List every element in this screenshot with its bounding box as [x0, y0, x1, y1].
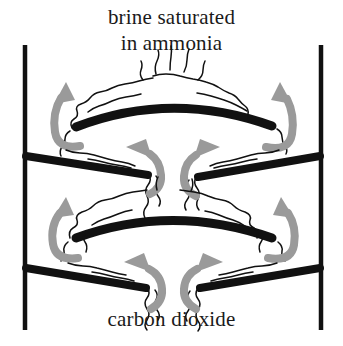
sloped-plates-middle [26, 156, 320, 177]
dome-baffle-plate-lower [76, 221, 272, 239]
sloped-plate-upper-left [26, 156, 148, 175]
flow-lines-upper-arch [60, 46, 287, 156]
sloped-plate-lower-right [200, 268, 320, 288]
flow-lines-middle-plates [66, 150, 279, 218]
arrow-outer-lower-right [268, 197, 295, 259]
arrow-inner-bottom-right [184, 253, 223, 309]
sloped-plate-upper-right [198, 156, 320, 177]
dome-baffle-plate-upper [76, 108, 272, 127]
tower-diagram-svg [0, 0, 343, 346]
sloped-plate-lower-left [26, 268, 146, 288]
tower-walls [25, 45, 321, 330]
bottom-label-carbon-dioxide: carbon dioxide [0, 306, 343, 332]
arrow-inner-bottom-left [124, 253, 162, 309]
sloped-plates-bottom [26, 268, 320, 288]
arrow-outer-upper-right [266, 82, 293, 148]
diagram-canvas: brine saturated in ammonia [0, 0, 343, 346]
arrow-outer-upper-left [54, 82, 80, 147]
